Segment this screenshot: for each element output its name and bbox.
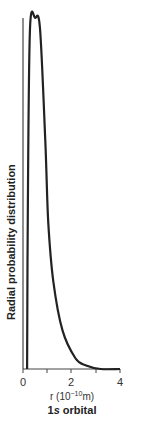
- chart-title: 1s orbital: [48, 404, 97, 416]
- chart-plot: [0, 0, 149, 421]
- x-axis-label: r (10−10m): [50, 390, 94, 402]
- probability-curve: [27, 12, 120, 370]
- x-tick-2: 2: [68, 376, 74, 388]
- y-axis-label: Radial probability distribution: [5, 164, 17, 320]
- x-tick-4: 4: [117, 376, 123, 388]
- x-tick-0: 0: [20, 376, 26, 388]
